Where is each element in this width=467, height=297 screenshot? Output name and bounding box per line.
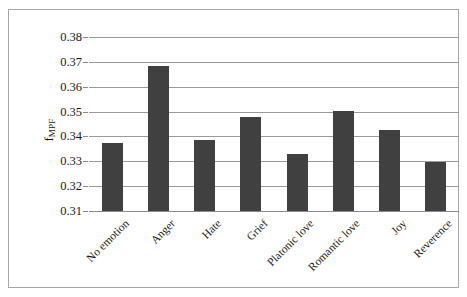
x-tick-label: Grief bbox=[244, 217, 270, 243]
bar[interactable] bbox=[240, 117, 261, 211]
x-tick-label: Anger bbox=[148, 217, 177, 246]
gridline-y-0.32 bbox=[89, 186, 459, 187]
y-tick-mark bbox=[83, 136, 88, 137]
y-tick-mark bbox=[83, 87, 88, 88]
x-tick-label: Joy bbox=[388, 217, 408, 237]
bar[interactable] bbox=[379, 130, 400, 211]
y-tick-mark bbox=[83, 161, 88, 162]
gridline-y-0.31 bbox=[89, 211, 459, 212]
gridline-y-0.35 bbox=[89, 112, 459, 113]
figure: fMPF 0.310.320.330.340.350.360.370.38 No… bbox=[0, 0, 467, 297]
bar[interactable] bbox=[102, 143, 123, 211]
gridline-y-0.38 bbox=[89, 37, 459, 38]
bar[interactable] bbox=[425, 162, 446, 211]
gridline-y-0.37 bbox=[89, 62, 459, 63]
bar[interactable] bbox=[148, 66, 169, 211]
gridline-y-0.33 bbox=[89, 161, 459, 162]
bar[interactable] bbox=[333, 111, 354, 211]
y-tick-mark bbox=[83, 186, 88, 187]
x-tick-label: Reverence bbox=[412, 217, 455, 260]
x-tick-label: No emotion bbox=[83, 217, 130, 264]
plot-area bbox=[89, 37, 459, 211]
bar[interactable] bbox=[194, 140, 215, 211]
y-axis-tick-marks bbox=[9, 37, 89, 211]
bar[interactable] bbox=[287, 154, 308, 211]
y-tick-mark bbox=[83, 62, 88, 63]
x-axis-category-labels: No emotionAngerHateGriefPlatonic loveRom… bbox=[89, 213, 459, 293]
y-tick-mark bbox=[83, 112, 88, 113]
chart-frame: fMPF 0.310.320.330.340.350.360.370.38 No… bbox=[8, 9, 459, 288]
y-tick-mark bbox=[83, 211, 88, 212]
gridline-y-0.34 bbox=[89, 136, 459, 137]
gridline-y-0.36 bbox=[89, 87, 459, 88]
y-tick-mark bbox=[83, 37, 88, 38]
x-tick-label: Hate bbox=[199, 217, 223, 241]
